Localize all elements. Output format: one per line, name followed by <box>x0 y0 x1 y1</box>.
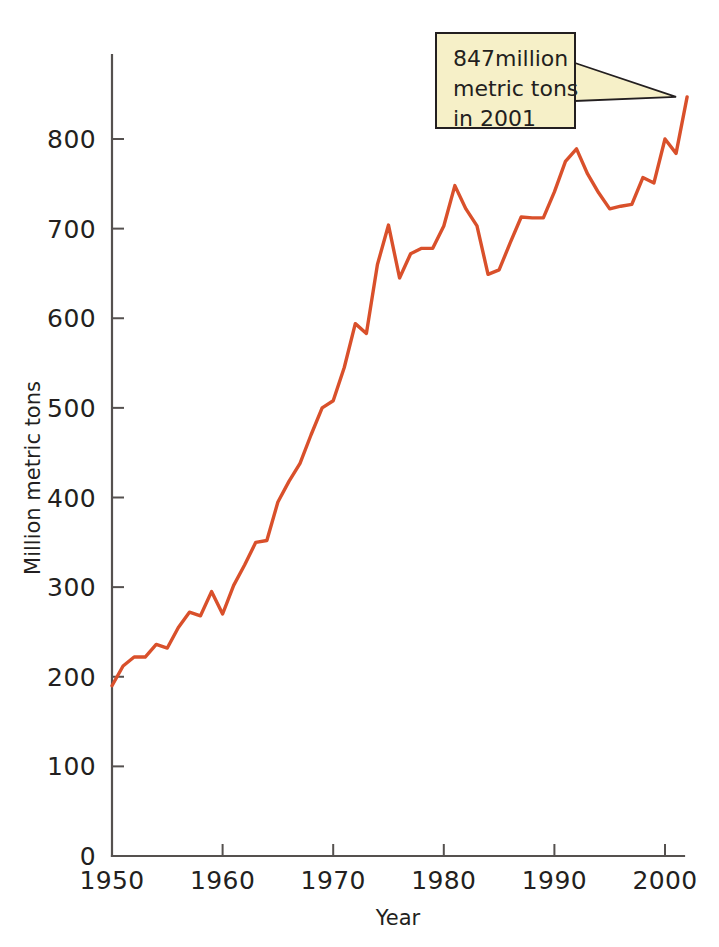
y-tick-label: 500 <box>47 394 96 423</box>
y-axis-title: Million metric tons <box>21 381 45 575</box>
x-tick-label: 1960 <box>190 866 255 895</box>
x-tick-label: 1980 <box>411 866 476 895</box>
y-tick-label: 200 <box>47 663 96 692</box>
callout-line-2: metric tons <box>453 76 578 101</box>
y-tick-label: 600 <box>47 304 96 333</box>
y-tick-label: 300 <box>47 573 96 602</box>
callout-line-1: 847million <box>453 46 568 71</box>
chart-container: 0100200300400500600700800 19501960197019… <box>0 0 719 947</box>
x-axis-title: Year <box>375 906 421 930</box>
callout-pointer <box>575 63 676 101</box>
y-tick-label: 700 <box>47 215 96 244</box>
line-chart: 0100200300400500600700800 19501960197019… <box>0 0 719 947</box>
y-tick-label: 100 <box>47 752 96 781</box>
x-tick-label: 2000 <box>632 866 697 895</box>
y-tick-label: 400 <box>47 484 96 513</box>
x-tick-label: 1990 <box>522 866 587 895</box>
callout-line-3: in 2001 <box>453 106 536 131</box>
x-tick-label: 1970 <box>301 866 366 895</box>
x-axis-ticks: 195019601970198019902000 <box>79 844 697 895</box>
data-series-line <box>112 97 687 686</box>
x-tick-label: 1950 <box>79 866 144 895</box>
y-tick-label: 800 <box>47 125 96 154</box>
